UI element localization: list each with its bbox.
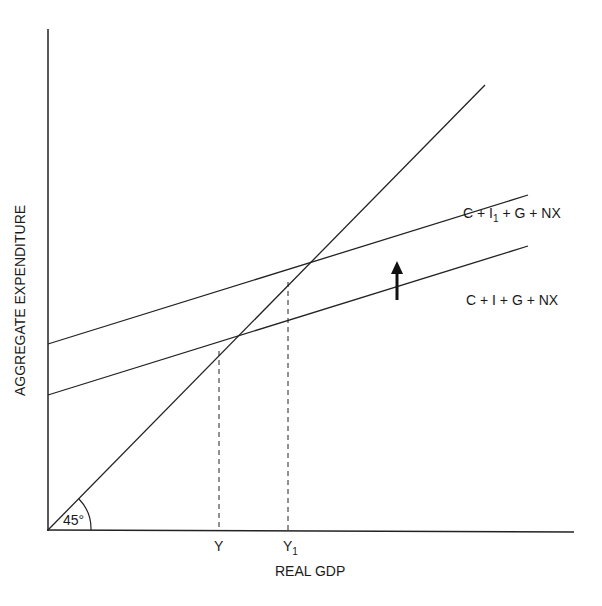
forty-five-degree-line <box>48 85 485 530</box>
angle-label: 45° <box>63 512 84 528</box>
tick-y1-sub: 1 <box>292 546 298 557</box>
label-ae-initial: C + I + G + NX <box>466 292 558 308</box>
label-ae-shifted-pre: C + I <box>463 205 493 221</box>
tick-y1: Y1 <box>283 538 298 557</box>
y-axis-label: AGGREGATE EXPENDITURE <box>12 205 28 396</box>
x-axis-label: REAL GDP <box>275 563 345 579</box>
tick-y1-main: Y <box>283 538 292 554</box>
shift-arrow-icon <box>391 261 403 274</box>
tick-y: Y <box>214 538 223 554</box>
label-ae-shifted: C + I1 + G + NX <box>463 205 561 224</box>
x-axis <box>47 530 574 532</box>
label-ae-shifted-post: + G + NX <box>499 205 561 221</box>
